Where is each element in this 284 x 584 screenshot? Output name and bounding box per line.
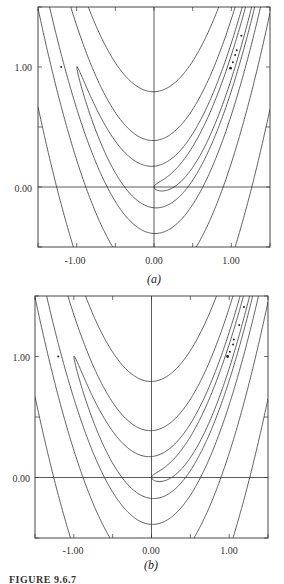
x-tick-label-0: 0.00 [142,545,160,556]
x-tick-label-1: 1.00 [220,545,238,556]
iterate-point [57,356,59,358]
y-tick-label-1: 1.00 [0,352,30,363]
iterate-point [229,351,231,353]
y-tick-label-0: 0.00 [0,473,30,484]
iterate-point [232,343,234,345]
iterate-point [238,324,240,326]
iterate-point [226,355,229,358]
contour-level-16 [47,296,259,524]
figure-caption: FIGURE 9.6.7 [9,574,76,584]
iterate-point [243,306,245,308]
contour-plot-b-canvas [0,0,284,584]
contour-plot-b: 1.00 0.00 -1.00 0.00 1.00 (b) [0,0,284,584]
panel-label-b: (b) [144,558,158,573]
iterate-point [233,339,235,341]
x-tick-label-neg1: -1.00 [63,545,84,556]
